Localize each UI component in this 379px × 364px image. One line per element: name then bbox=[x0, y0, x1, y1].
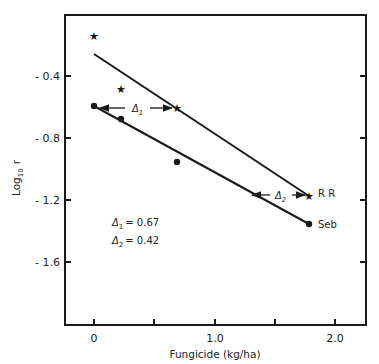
circle-marker bbox=[306, 221, 312, 227]
y-tick-label: - 0.8 bbox=[35, 132, 60, 145]
rr-fit-line bbox=[94, 54, 309, 196]
plot-frame bbox=[65, 15, 366, 325]
y-tick-label: - 0.4 bbox=[35, 70, 60, 83]
x-tick-label: 0 bbox=[91, 332, 98, 345]
svg-text:Δ1: Δ1 bbox=[131, 103, 143, 117]
seb-fit-line bbox=[94, 106, 309, 224]
y-tick-label: - 1.2 bbox=[35, 194, 60, 207]
star-marker: ★ bbox=[116, 83, 126, 95]
y-tick-label: - 1.6 bbox=[35, 256, 60, 269]
circle-marker bbox=[118, 116, 124, 122]
delta2-value: Δ2= 0.42 bbox=[111, 235, 159, 249]
y-axis-title-sub: 10 bbox=[17, 168, 25, 177]
circle-marker bbox=[174, 159, 180, 165]
series-label-rr: R R bbox=[318, 188, 335, 199]
chart-canvas: - 0.4 - 0.8 - 1.2 - 1.6 0 1.0 2.0 Fungic… bbox=[0, 0, 379, 364]
star-marker: ★ bbox=[304, 190, 314, 202]
svg-text:Log10r: Log10r bbox=[10, 159, 25, 196]
svg-text:Δ2: Δ2 bbox=[274, 190, 287, 204]
star-marker: ★ bbox=[172, 102, 182, 114]
delta1-value: Δ1= 0.67 bbox=[111, 217, 159, 231]
x-tick-label: 1.0 bbox=[206, 332, 224, 345]
x-axis-title: Fungicide (kg/ha) bbox=[169, 348, 260, 360]
y-axis-ticks bbox=[65, 76, 366, 262]
x-tick-label: 2.0 bbox=[326, 332, 344, 345]
series-label-seb: Seb bbox=[318, 219, 337, 230]
y-axis-title: Log10r bbox=[10, 159, 25, 196]
y-axis-title-var: r bbox=[10, 159, 22, 164]
y-axis-title-main: Log bbox=[10, 177, 22, 196]
star-marker: ★ bbox=[89, 30, 99, 42]
circle-marker bbox=[91, 103, 97, 109]
